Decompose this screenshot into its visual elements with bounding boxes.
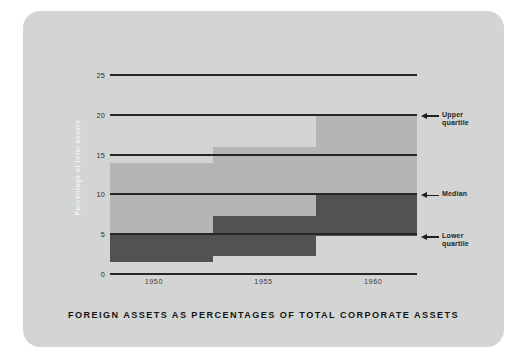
y-tick-label: 25	[96, 71, 105, 80]
gridline-y-20	[110, 114, 417, 116]
arrow-left-icon	[421, 234, 439, 240]
x-tick-label: 1955	[254, 277, 272, 286]
arrow-left-icon	[421, 192, 439, 198]
band-lower-quartile-segment	[316, 194, 417, 235]
plot-area: 0510152025195019551960	[110, 75, 417, 274]
band-lower-quartile-segment	[110, 234, 213, 262]
x-tick-label: 1960	[364, 277, 382, 286]
y-tick-label: 15	[96, 150, 105, 159]
gridline-y-25	[110, 74, 417, 76]
arrow-left-icon	[421, 113, 439, 119]
y-axis-title-text: Percentage of total assets	[74, 119, 81, 215]
y-axis-title: Percentage of total assets	[70, 105, 84, 230]
gridline-y-15	[110, 154, 417, 156]
band-upper-quartile-segment	[213, 147, 316, 216]
band-lower-quartile-segment	[213, 216, 316, 256]
y-tick-label: 0	[101, 270, 105, 279]
annotation-upper-quartile-label: Upperquartile	[442, 111, 469, 128]
band-upper-quartile-segment	[110, 163, 213, 235]
x-axis-line	[110, 273, 417, 275]
annotation-upper-quartile: Upperquartile	[421, 111, 469, 128]
gridline-y-10	[110, 193, 417, 195]
annotation-median-label: Median	[442, 190, 467, 199]
chart-caption: FOREIGN ASSETS AS PERCENTAGES OF TOTAL C…	[0, 310, 527, 320]
annotation-lower-quartile-label: Lowerquartile	[442, 232, 469, 249]
y-tick-label: 5	[101, 230, 105, 239]
annotation-lower-quartile: Lowerquartile	[421, 232, 469, 249]
gridline-y-5	[110, 233, 417, 235]
chart-figure: Percentage of total assets 0510152025195…	[0, 0, 527, 358]
y-tick-label: 10	[96, 190, 105, 199]
y-tick-label: 20	[96, 110, 105, 119]
x-tick-label: 1950	[145, 277, 163, 286]
annotation-median: Median	[421, 190, 467, 199]
